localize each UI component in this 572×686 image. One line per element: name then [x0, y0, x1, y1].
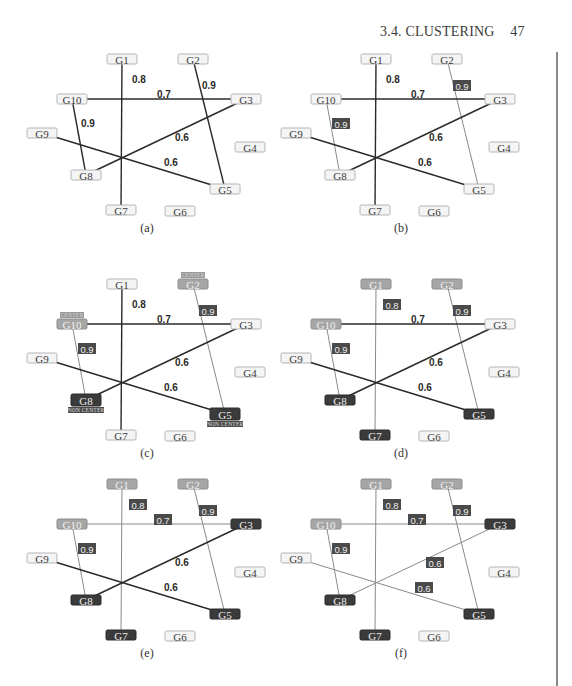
node-g5: G5 [210, 408, 240, 421]
panel-caption: (a) [140, 221, 153, 235]
edge-g9-g5 [296, 133, 479, 189]
edge-g2-g5 [447, 59, 479, 189]
clustering-figure: 0.80.90.70.90.60.6G1G2G3G4G5G6G7G8G9G10(… [0, 0, 572, 686]
svg-text:G2: G2 [186, 479, 199, 491]
edge-weight-label: 0.8 [386, 74, 400, 85]
svg-text:G2: G2 [440, 279, 453, 291]
edge-weight-badge: 0.7 [408, 514, 426, 526]
node-g8: G8 [71, 170, 101, 182]
node-g9: G9 [281, 553, 311, 565]
svg-text:0.9: 0.9 [455, 506, 468, 517]
svg-text:G6: G6 [427, 206, 441, 218]
edge-g9-g5 [296, 558, 479, 614]
svg-text:G6: G6 [173, 206, 187, 218]
svg-text:G9: G9 [289, 553, 303, 565]
svg-text:G7: G7 [114, 630, 128, 642]
svg-text:0.9: 0.9 [201, 506, 214, 517]
node-g7: G7 [360, 205, 390, 217]
node-g4: G4 [489, 367, 519, 379]
svg-text:G6: G6 [427, 431, 441, 443]
svg-text:G3: G3 [493, 319, 507, 331]
panel-f: 0.80.90.70.90.60.6G1G2G3G4G5G6G7G8G9G10(… [281, 479, 519, 661]
edge-g9-g5 [42, 358, 225, 414]
svg-text:G10: G10 [317, 519, 336, 531]
edge-g10-g8 [326, 324, 340, 400]
svg-text:G2: G2 [440, 54, 453, 66]
edge-weight-badge: 0.9 [453, 80, 471, 92]
node-g8: G8 [325, 595, 355, 607]
svg-text:G5: G5 [472, 409, 486, 421]
edge-weight-label: 0.6 [418, 382, 432, 393]
panel-caption: (d) [394, 446, 408, 460]
svg-text:G9: G9 [35, 128, 49, 140]
edge-weight-badge: 0.7 [154, 514, 172, 526]
edge-g9-g5 [296, 358, 479, 414]
node-g6: G6 [165, 206, 195, 218]
node-g2: G2 [432, 54, 462, 66]
node-g10: G10 [311, 319, 341, 331]
svg-text:G8: G8 [333, 395, 347, 407]
node-g3: G3 [231, 519, 261, 531]
edge-weight-badge: 0.6 [415, 582, 433, 594]
node-g3: G3 [231, 94, 261, 106]
svg-text:G4: G4 [497, 567, 511, 579]
node-g2: G2 [432, 479, 462, 491]
edge-weight-label: 0.8 [132, 74, 146, 85]
node-g2: G2 [432, 279, 462, 291]
edge-weight-badge: 0.9 [332, 343, 350, 355]
svg-text:0.8: 0.8 [385, 500, 398, 511]
node-g10: G10 [57, 94, 87, 106]
svg-text:G10: G10 [317, 94, 336, 106]
node-g3: G3 [485, 519, 515, 531]
node-g4: G4 [489, 567, 519, 579]
panel-c: 0.80.90.70.90.60.6CENTERCENTERNON CENTER… [27, 272, 265, 460]
edge-weight-label: 0.7 [157, 314, 171, 325]
node-g1: G1 [107, 479, 137, 491]
edge-g9-g5 [42, 133, 225, 189]
edge-weight-badge: 0.8 [129, 499, 147, 511]
node-g10: G10 [311, 94, 341, 106]
svg-text:0.9: 0.9 [334, 119, 347, 130]
svg-text:G1: G1 [115, 479, 128, 491]
node-g10: G10 [57, 519, 87, 531]
edge-g10-g8 [72, 324, 86, 400]
node-g7: G7 [360, 430, 390, 442]
svg-text:G8: G8 [79, 395, 93, 407]
node-g8: G8 [325, 170, 355, 182]
edge-weight-label: 0.6 [175, 357, 189, 368]
svg-text:G5: G5 [472, 184, 486, 196]
node-g3: G3 [485, 319, 515, 331]
node-g7: G7 [106, 430, 136, 442]
svg-text:G7: G7 [368, 205, 382, 217]
svg-text:G5: G5 [472, 609, 486, 621]
edge-weight-badge: 0.8 [383, 299, 401, 311]
panel-caption: (e) [140, 646, 153, 660]
svg-text:G1: G1 [115, 279, 128, 291]
node-g8: G8 [71, 595, 101, 607]
node-g9: G9 [281, 128, 311, 140]
svg-text:G4: G4 [497, 142, 511, 154]
node-g1: G1 [361, 54, 391, 66]
svg-text:G1: G1 [369, 279, 382, 291]
svg-text:0.9: 0.9 [80, 344, 93, 355]
node-g1: G1 [361, 279, 391, 291]
panel-caption: (c) [140, 446, 153, 460]
edge-weight-label: 0.6 [429, 357, 443, 368]
node-g8: G8 [71, 394, 101, 407]
node-g10: G10 [57, 319, 87, 331]
svg-text:G4: G4 [243, 142, 257, 154]
svg-text:G5: G5 [218, 409, 232, 421]
edge-weight-badge: 0.9 [332, 543, 350, 555]
panel-caption: (b) [394, 221, 408, 235]
node-g6: G6 [419, 631, 449, 643]
svg-text:G3: G3 [239, 319, 253, 331]
svg-text:G4: G4 [243, 367, 257, 379]
edge-g10-g8 [326, 99, 340, 175]
edge-weight-badge: 0.9 [332, 118, 350, 130]
node-g6: G6 [419, 206, 449, 218]
node-g4: G4 [235, 367, 265, 379]
svg-text:0.6: 0.6 [428, 558, 441, 569]
node-g2: G2 [178, 54, 208, 66]
edge-weight-label: 0.7 [157, 89, 171, 100]
svg-text:0.9: 0.9 [201, 306, 214, 317]
